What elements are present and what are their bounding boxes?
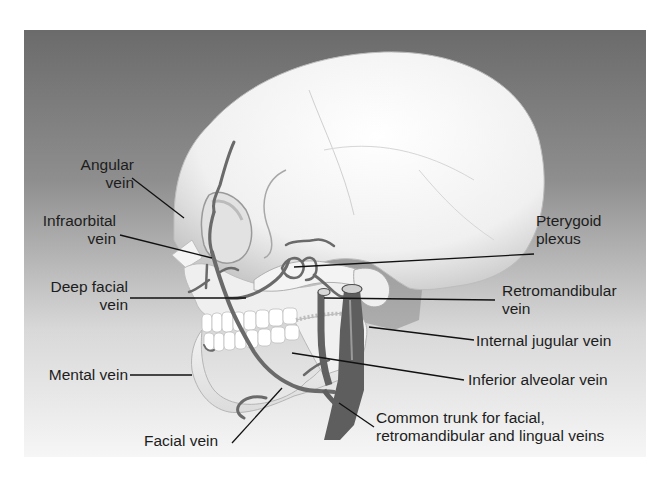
label-pterygoid-plexus: Pterygoid plexus	[536, 212, 601, 248]
label-mental-vein: Mental vein	[49, 366, 128, 384]
label-inferior-alveolar-vein: Inferior alveolar vein	[468, 371, 608, 389]
label-deep-facial-vein: Deep facial vein	[50, 278, 128, 314]
label-common-trunk: Common trunk for facial, retromandibular…	[376, 409, 604, 445]
label-internal-jugular-vein: Internal jugular vein	[476, 332, 611, 350]
label-infraorbital-vein: Infraorbital vein	[43, 212, 116, 248]
label-retromandibular-vein: Retromandibular vein	[502, 282, 617, 318]
label-angular-vein: Angular vein	[81, 156, 134, 192]
anatomy-figure: Angular vein Infraorbital vein Deep faci…	[24, 30, 646, 457]
label-facial-vein: Facial vein	[144, 432, 218, 450]
